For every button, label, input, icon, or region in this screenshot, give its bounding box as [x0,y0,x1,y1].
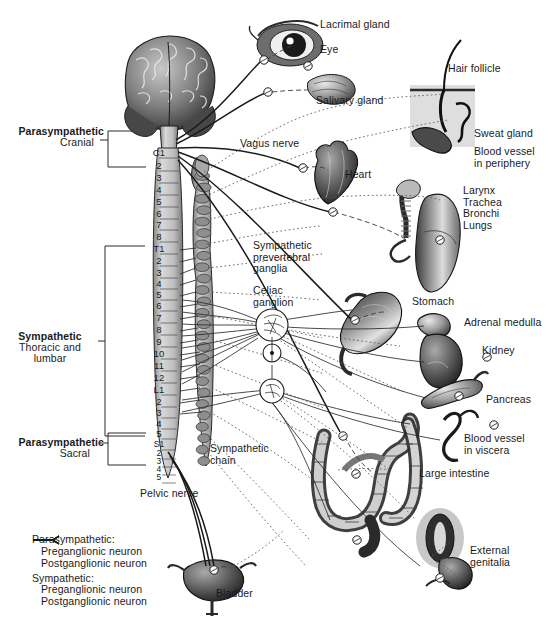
label-bladder: Bladder [216,588,253,600]
label-sympathetic-prevertebral-ganglia: Sympathetic prevertebral ganglia [253,240,312,275]
spinal-segment-t7: 7 [148,312,170,324]
legend-label-para-pre: Preganglionic neuron [41,546,163,558]
division-brackets [98,131,146,465]
spinal-segment-c8: 8 [148,231,170,243]
label-heart: Heart [345,169,371,181]
stomach-illustration [340,292,401,374]
division-sublabel-sacral: Sacral [0,448,104,460]
legend-symbol-dotted [32,534,62,546]
spinal-segment-c4: 4 [148,184,170,196]
adrenal-medulla-illustration [418,314,451,338]
spinal-segment-t10: 10 [148,348,170,360]
label-kidney: Kidney [482,345,515,357]
label-sympathetic-chain: Sympathetic chain [210,443,269,466]
spinal-segment-c7: 7 [148,219,170,231]
spinal-segment-t6: 6 [148,300,170,312]
legend-label-para-post: Postganglionic neuron [41,558,163,570]
large-intestine-illustration [311,420,423,552]
legend-row-symp-post: Postganglionic neuron [41,596,163,608]
label-large-intestine: Large intestine [419,468,489,480]
label-celiac-ganglion: Celiac ganglion [253,285,294,308]
label-sweat-gland: Sweat gland [474,128,533,140]
lungs-illustration [391,180,460,292]
label-pelvic-nerve: Pelvic nerve [140,488,198,500]
legend-row-para-post: Postganglionic neuron [41,558,163,570]
celiac-ganglion-circle [256,309,288,341]
prevertebral-ganglia-cluster [256,309,288,403]
autonomic-nervous-system-figure: Parasympathetic Cranial Sympathetic Thor… [0,0,559,624]
spinal-segment-c3: 3 [148,172,170,184]
spinal-segment-t5: 5 [148,289,170,301]
spinal-segment-l1: L1 [148,384,170,396]
label-pancreas: Pancreas [486,394,531,406]
label-lacrimal-gland: Lacrimal gland [320,19,390,31]
label-larynx-trachea-bronchi-lungs: Larynx Trachea Bronchi Lungs [463,185,502,231]
label-eye: Eye [320,44,338,56]
spinal-segment-t2: 2 [148,255,170,267]
label-adrenal-medulla: Adrenal medulla [464,317,541,329]
spinal-segment-c1: C1 [148,147,170,159]
sympathetic-chain-illustration [192,155,214,466]
spinal-segment-t12: 12 [148,372,170,384]
spinal-segment-c6: 6 [148,208,170,220]
spinal-segment-s5: 5 [148,472,170,484]
spinal-segment-l5: 5 [148,428,170,440]
legend-label-symp-pre: Preganglionic neuron [41,584,163,596]
spinal-segment-c5: 5 [148,196,170,208]
label-stomach: Stomach [412,296,454,308]
label-salivary-gland: Salivary gland [316,95,383,107]
label-hair-follicle: Hair follicle [448,63,501,75]
spinal-segment-t4: 4 [148,278,170,290]
neuron-type-legend: Parasympathetic: Preganglionic neuron Po… [32,534,163,608]
spinal-segment-t8: 8 [148,324,170,336]
legend-row-symp-pre: Preganglionic neuron [41,584,163,596]
spinal-segment-t11: 11 [148,360,170,372]
spinal-segment-c2: 2 [148,160,170,172]
division-sublabel-lumbar: lumbar [0,353,100,365]
spinal-segment-t1: T1 [148,243,170,255]
label-external-genitalia: External genitalia [470,545,510,568]
label-vagus-nerve: Vagus nerve [240,138,299,150]
spinal-segment-t9: 9 [148,336,170,348]
legend-label-symp-post: Postganglionic neuron [41,596,163,608]
label-blood-vessel-periphery: Blood vessel in periphery [474,146,535,169]
legend-row-para-pre: Preganglionic neuron [41,546,163,558]
hair-follicle-illustration [410,40,475,153]
brain-illustration [125,36,216,154]
figure-artwork [0,0,559,624]
label-blood-vessel-viscera: Blood vessel in viscera [464,433,525,456]
spinal-segment-l3: 3 [148,407,170,419]
spinal-segment-l2: 2 [148,396,170,408]
spinal-segment-t3: 3 [148,267,170,279]
kidney-illustration [418,314,463,388]
division-sublabel-cranial: Cranial [0,137,104,149]
